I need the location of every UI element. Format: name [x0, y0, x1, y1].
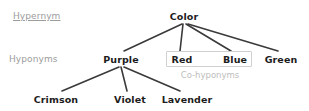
- edge-color-to-green: [188, 24, 278, 51]
- node-blue: Blue: [223, 54, 247, 65]
- node-color: Color: [170, 11, 198, 22]
- node-lavender: Lavender: [162, 94, 213, 105]
- node-violet: Violet: [114, 94, 146, 105]
- node-green: Green: [265, 54, 298, 65]
- edge-color-to-red: [180, 24, 183, 51]
- hyponym-hypernym-diagram: ColorPurpleRedBlueGreenCrimsonVioletLave…: [0, 0, 309, 111]
- edge-color-to-purple: [124, 24, 182, 51]
- node-crimson: Crimson: [34, 94, 78, 105]
- edge-purple-to-lavender: [124, 67, 180, 91]
- node-purple: Purple: [103, 54, 139, 65]
- row-label-hypernym: Hypernym: [13, 11, 60, 21]
- row-label-hyponyms: Hyponyms: [9, 54, 58, 64]
- co-hyponyms-caption: Co-hyponyms: [181, 70, 240, 80]
- edge-color-to-blue: [186, 24, 231, 51]
- edge-purple-to-crimson: [62, 67, 119, 91]
- node-red: Red: [172, 54, 193, 65]
- edge-purple-to-violet: [121, 67, 127, 91]
